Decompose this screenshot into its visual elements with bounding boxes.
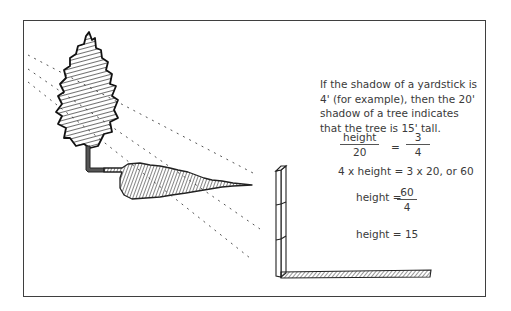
equation-1-right-denominator: 4 [406, 145, 430, 158]
tree-foliage [56, 32, 118, 148]
equation-3-denominator: 4 [397, 200, 417, 213]
illustration [0, 0, 511, 311]
equation-4: height = 15 [356, 228, 418, 240]
equation-1-left-fraction: height 20 [340, 131, 379, 158]
tree-icon [56, 32, 118, 172]
equation-1-right-fraction: 3 4 [406, 131, 430, 158]
tree-shadow [104, 163, 252, 199]
equation-1-left-denominator: 20 [340, 145, 379, 158]
yardstick-icon [276, 166, 286, 277]
tree-trunk [86, 146, 104, 172]
equation-1-equals: = [391, 141, 400, 153]
explanation-paragraph: If the shadow of a yardstick is 4' (for … [320, 77, 480, 135]
yardstick-shadow [281, 270, 431, 278]
equation-3-label: height = [356, 191, 402, 203]
equation-1-left-numerator: height [340, 131, 379, 145]
equation-2: 4 x height = 3 x 20, or 60 [338, 165, 474, 177]
equation-3-numerator: 60 [397, 186, 417, 200]
equation-1-right-numerator: 3 [406, 131, 430, 145]
equation-3-fraction: 60 4 [397, 186, 417, 213]
